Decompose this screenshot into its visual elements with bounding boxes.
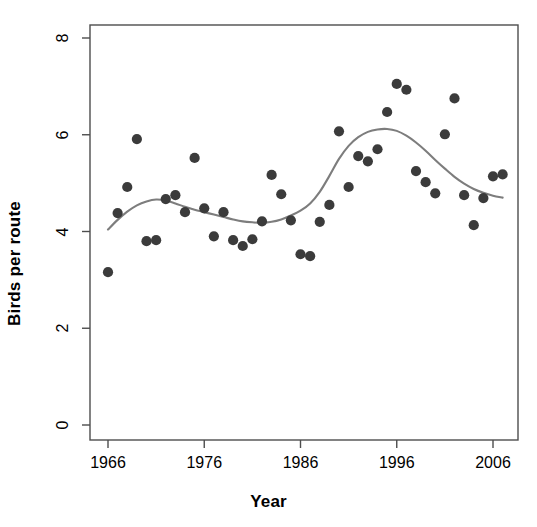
data-point (228, 235, 238, 245)
data-point (190, 153, 200, 163)
data-point (247, 234, 257, 244)
y-tick-label: 0 (54, 416, 72, 434)
data-point (478, 193, 488, 203)
y-tick-label: 2 (54, 319, 72, 337)
data-point (459, 190, 469, 200)
data-point (315, 217, 325, 227)
x-tick-label: 1966 (90, 454, 126, 472)
data-point (276, 189, 286, 199)
data-point (295, 249, 305, 259)
data-point (372, 144, 382, 154)
x-tick-label: 2006 (475, 454, 511, 472)
data-point (113, 208, 123, 218)
plot-frame (90, 25, 518, 440)
y-tick-label: 6 (54, 126, 72, 144)
data-point (103, 267, 113, 277)
x-tick-label: 1976 (186, 454, 222, 472)
data-point (363, 156, 373, 166)
axis-box (90, 25, 518, 440)
data-point (334, 126, 344, 136)
data-point (469, 220, 479, 230)
data-point (401, 85, 411, 95)
y-tick-label: 4 (54, 223, 72, 241)
data-point (286, 215, 296, 225)
y-axis-title: Birds per route (0, 0, 30, 527)
data-point (449, 93, 459, 103)
data-point (392, 79, 402, 89)
data-point (488, 171, 498, 181)
y-tick-label: 8 (54, 29, 72, 47)
data-points (103, 79, 508, 277)
y-axis-ticks (82, 38, 90, 425)
data-point (353, 151, 363, 161)
data-point (382, 107, 392, 117)
data-point (170, 190, 180, 200)
data-point (324, 200, 334, 210)
data-point (151, 235, 161, 245)
data-point (305, 251, 315, 261)
data-point (122, 182, 132, 192)
data-point (440, 129, 450, 139)
data-point (199, 203, 209, 213)
data-point (218, 207, 228, 217)
data-point (238, 241, 248, 251)
scatter-plot-canvas (0, 0, 537, 527)
data-point (430, 188, 440, 198)
data-point (411, 166, 421, 176)
data-point (161, 194, 171, 204)
y-axis-title-text: Birds per route (5, 201, 25, 326)
trend-line-path (108, 129, 503, 230)
data-point (344, 182, 354, 192)
x-axis-ticks (108, 440, 493, 448)
x-tick-label: 1996 (379, 454, 415, 472)
data-point (180, 207, 190, 217)
data-point (498, 169, 508, 179)
data-point (132, 134, 142, 144)
data-point (257, 216, 267, 226)
chart-container: 19661976198619962006 02468 Birds per rou… (0, 0, 537, 527)
trend-line (108, 129, 503, 230)
x-tick-label: 1986 (283, 454, 319, 472)
x-axis-title: Year (0, 492, 537, 512)
data-point (421, 177, 431, 187)
data-point (267, 170, 277, 180)
data-point (141, 236, 151, 246)
data-point (209, 231, 219, 241)
